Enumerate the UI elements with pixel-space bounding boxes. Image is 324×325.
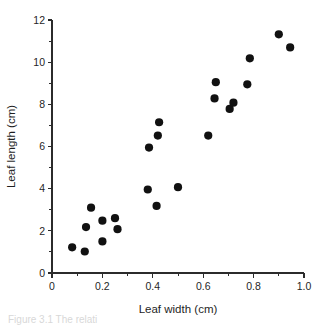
- x-tick-label: 0.8: [246, 280, 261, 292]
- x-tick-label: 0.6: [196, 280, 211, 292]
- data-point[interactable]: [154, 131, 162, 139]
- y-tick-label: 4: [39, 182, 45, 194]
- data-point[interactable]: [81, 247, 89, 255]
- data-series: [68, 30, 294, 255]
- y-tick-label: 12: [33, 14, 45, 26]
- data-point[interactable]: [155, 118, 163, 126]
- y-tick-label: 0: [39, 267, 45, 279]
- data-point[interactable]: [82, 223, 90, 231]
- x-tick-label: 0: [49, 280, 55, 292]
- figure-caption: Figure 3.1 The relati: [8, 314, 318, 325]
- scatter-plot: 02468101200.20.40.60.81.0Leaf width (cm)…: [0, 0, 324, 325]
- data-point[interactable]: [212, 78, 220, 86]
- data-point[interactable]: [243, 80, 251, 88]
- data-point[interactable]: [286, 43, 294, 51]
- y-axis-title: Leaf length (cm): [5, 105, 17, 188]
- data-point[interactable]: [98, 217, 106, 225]
- data-point[interactable]: [144, 185, 152, 193]
- data-point[interactable]: [229, 99, 237, 107]
- data-point[interactable]: [98, 237, 106, 245]
- y-tick-label: 6: [39, 140, 45, 152]
- y-tick-label: 8: [39, 98, 45, 110]
- data-point[interactable]: [145, 143, 153, 151]
- data-point[interactable]: [152, 202, 160, 210]
- data-point[interactable]: [246, 54, 254, 62]
- data-point[interactable]: [68, 243, 76, 251]
- figure-container: 02468101200.20.40.60.81.0Leaf width (cm)…: [0, 0, 324, 325]
- x-tick-label: 0.4: [145, 280, 160, 292]
- y-tick-label: 10: [33, 56, 45, 68]
- data-point[interactable]: [113, 225, 121, 233]
- data-point[interactable]: [275, 30, 283, 38]
- data-point[interactable]: [87, 204, 95, 212]
- x-tick-label: 1.0: [297, 280, 312, 292]
- axis-spines: [52, 20, 304, 273]
- y-tick-label: 2: [39, 225, 45, 237]
- x-tick-label: 0.2: [95, 280, 110, 292]
- data-point[interactable]: [174, 183, 182, 191]
- data-point[interactable]: [204, 131, 212, 139]
- data-point[interactable]: [111, 214, 119, 222]
- data-point[interactable]: [210, 94, 218, 102]
